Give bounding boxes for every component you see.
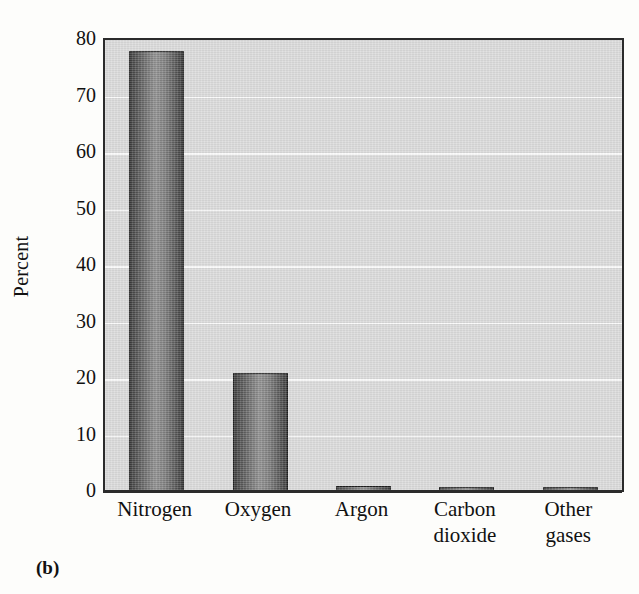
y-axis-tick-label: 10	[52, 424, 96, 444]
y-axis-tick-labels: 01020304050607080	[52, 38, 96, 490]
bar-chart-figure: Percent 01020304050607080 NitrogenOxygen…	[0, 0, 639, 594]
y-axis-tick-label: 70	[52, 85, 96, 105]
figure-caption: (b)	[36, 557, 59, 579]
x-axis-tick-label-line: dioxide	[433, 522, 496, 548]
x-axis-tick-label-line: Oxygen	[225, 497, 292, 521]
x-axis-line	[103, 490, 622, 493]
x-axis-tick-label: Nitrogen	[117, 496, 192, 522]
x-axis-tick-label-line: Other	[544, 497, 592, 521]
x-axis-tick-label-line: gases	[544, 522, 592, 548]
y-axis-tick-label: 30	[52, 311, 96, 331]
x-axis-tick-label: Carbondioxide	[433, 496, 496, 548]
y-axis-tick-label: 60	[52, 141, 96, 161]
y-axis-tick-label: 50	[52, 198, 96, 218]
x-axis-tick-labels: NitrogenOxygenArgonCarbondioxideOthergas…	[103, 496, 622, 566]
y-axis-tick-label: 0	[52, 480, 96, 500]
bar-nitrogen	[129, 51, 184, 492]
x-axis-tick-label-line: Carbon	[434, 497, 496, 521]
bar-oxygen	[233, 373, 288, 492]
y-axis-title: Percent	[10, 207, 33, 327]
x-axis-tick-label-line: Argon	[335, 497, 388, 521]
x-axis-tick-label: Argon	[335, 496, 388, 522]
x-axis-tick-label: Oxygen	[225, 496, 292, 522]
plot-area	[103, 38, 624, 492]
y-axis-tick-label: 80	[52, 28, 96, 48]
x-axis-tick-label-line: Nitrogen	[117, 497, 192, 521]
y-axis-tick-label: 40	[52, 254, 96, 274]
x-axis-tick-label: Othergases	[544, 496, 592, 548]
y-axis-tick-label: 20	[52, 367, 96, 387]
